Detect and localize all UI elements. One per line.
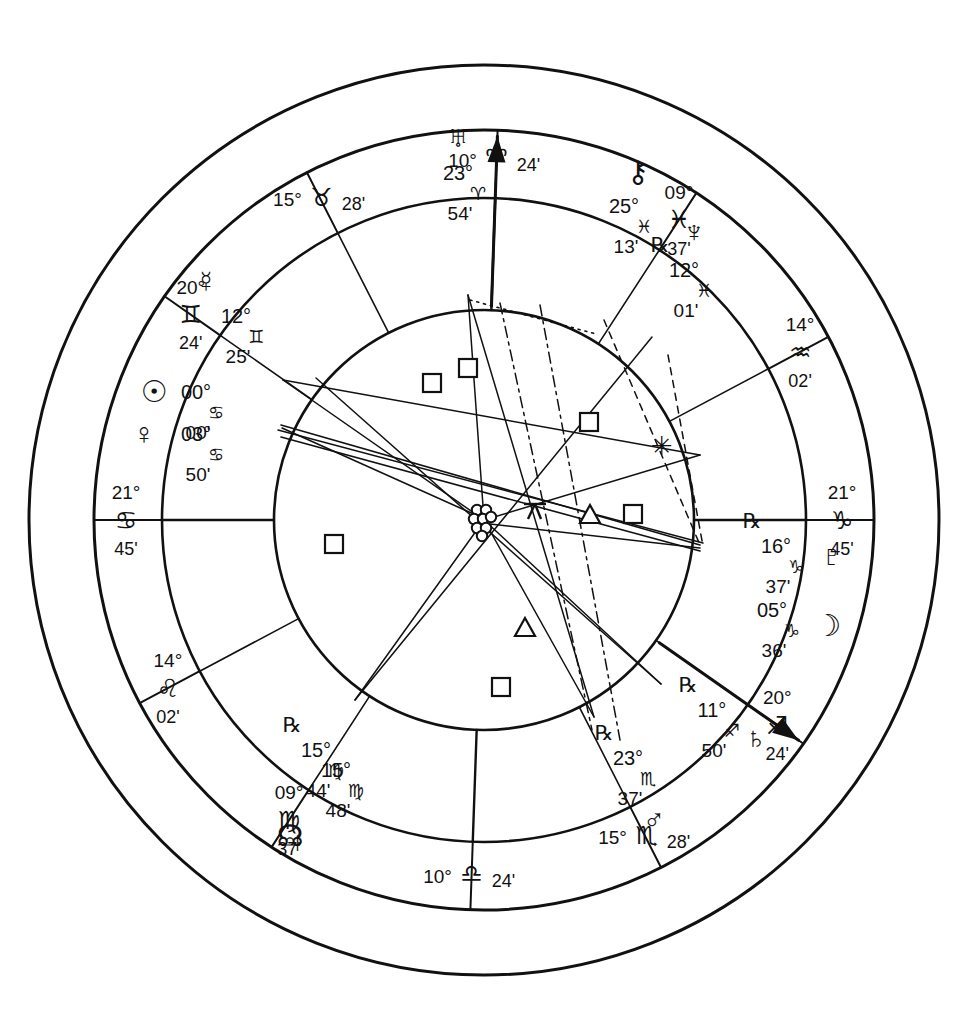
zodiac-virgo-icon: ♍	[328, 761, 344, 781]
cusp-minute-cusp-12: 24'	[179, 333, 202, 353]
cusp-minute-cusp-2: 02'	[156, 707, 179, 727]
retrograde-icon-pluto: ℞	[743, 509, 762, 532]
cusp-minute-cusp-ic: 24'	[492, 871, 515, 891]
retrograde-icon-neptune: ℞	[651, 233, 670, 256]
aspect-trine-2	[515, 618, 535, 636]
cusp-label-cusp-8: 14°♒02'	[786, 314, 815, 391]
cusp-degree-cusp-asc: 21°	[112, 482, 141, 503]
planet-minute-mars: 37'	[618, 788, 643, 809]
planet-degree-chiron: 25°	[609, 195, 639, 217]
aspect-line-dashdot-1	[500, 303, 592, 730]
zodiac-capricorn-icon: ♑	[784, 621, 800, 641]
sun-icon: ☉	[141, 375, 168, 408]
mercury-icon: ☿	[195, 265, 218, 298]
planet-mercury: ☿12°♊25'	[195, 265, 264, 367]
zodiac-cancer-icon: ♋	[208, 403, 224, 423]
planet-degree-sun: 00°	[181, 381, 211, 403]
astrology-chart-wheel: 21°♋45'14°♌02'09°♍37'10°♎24'15°♏28'20°♐2…	[0, 0, 968, 1024]
chiron-icon: ⚷	[627, 155, 649, 188]
moon-icon: ☽	[815, 609, 842, 642]
retrograde-icon-saturn: ℞	[679, 673, 698, 696]
aspect-line-pair-2a	[282, 428, 478, 516]
pluto-icon: ♇	[821, 539, 844, 572]
cusp-minute-cusp-8: 02'	[788, 371, 811, 391]
hub-aspect-line-0	[468, 295, 484, 520]
planet-uranus: ♅23°♈54'	[443, 120, 486, 224]
zodiac-cancer-icon: ♋	[115, 506, 137, 534]
cusp-degree-cusp-ic: 10°	[423, 866, 452, 887]
hub-aspect-line-3	[283, 380, 484, 520]
house-spoke-cusp-8	[669, 369, 768, 422]
zodiac-pisces-icon: ♓	[696, 281, 712, 301]
planet-minute-moon: 36'	[762, 640, 787, 661]
aspect-trine-1	[580, 505, 600, 523]
planet-degree-moon: 05°	[757, 599, 787, 621]
zodiac-leo-icon: ♌	[157, 674, 179, 702]
cusp-minute-cusp-mc: 24'	[517, 155, 540, 175]
house-spoke-cusp-11	[338, 233, 389, 333]
cusp-label-cusp-ic: 10°♎24'	[423, 859, 515, 890]
planet-degree-mars: 23°	[613, 747, 643, 769]
planet-minute-chiron: 13'	[614, 236, 639, 257]
zodiac-gemini-icon: ♊	[248, 327, 264, 347]
retrograde-icon-jupiter: ℞	[283, 713, 302, 736]
zodiac-capricorn-icon: ♑	[788, 557, 804, 577]
planet-minute-uranus: 54'	[448, 203, 473, 224]
zodiac-virgo-icon: ♍	[348, 781, 364, 801]
planet-minute-neptune: 01'	[674, 300, 699, 321]
planet-degree-venus: 03°	[181, 423, 211, 445]
aspect-square-6	[492, 678, 510, 696]
planet-minute-nnode: 48'	[326, 800, 351, 821]
cusp-degree-cusp-dsc: 21°	[828, 482, 857, 503]
planet-venus: ♀03°♋50'	[133, 417, 224, 485]
uranus-icon: ♅	[447, 120, 470, 153]
planet-minute-pluto: 37'	[766, 576, 791, 597]
aspect-square-1	[459, 359, 477, 377]
cusp-degree-cusp-8: 14°	[786, 314, 815, 335]
hub-aspect-line-1	[355, 520, 484, 700]
zodiac-sagittarius-icon: ♐	[724, 721, 740, 741]
cusp-minute-cusp-asc: 45'	[114, 539, 137, 559]
planet-degree-pluto: 16°	[761, 535, 791, 557]
hub-aspect-line-4	[484, 520, 661, 684]
neptune-icon: ♆	[683, 215, 706, 248]
jupiter-icon: ♃	[281, 825, 304, 858]
saturn-icon: ♄	[745, 721, 768, 754]
zodiac-scorpio-icon: ♏	[640, 769, 656, 789]
aspect-square-4	[624, 505, 642, 523]
cusp-label-cusp-2: 14°♌02'	[154, 650, 183, 727]
cusp-degree-cusp-6: 20°	[763, 687, 792, 708]
venus-icon: ♀	[133, 417, 156, 450]
cusp-degree-cusp-11: 15°	[273, 189, 302, 210]
planet-pluto: ♇16°♑37'℞	[743, 509, 844, 597]
aspect-square-2	[423, 374, 441, 392]
aspect-line-dotted-1	[470, 300, 596, 334]
house-spoke-cusp-ic	[473, 730, 477, 842]
conjunction-dot-7	[477, 531, 487, 541]
planet-degree-uranus: 23°	[443, 162, 473, 184]
planet-minute-venus: 50'	[186, 464, 211, 485]
aspect-sextile-1: ✳	[651, 431, 673, 461]
house-spoke-cusp-2	[200, 619, 299, 672]
zodiac-cancer-icon: ♋	[208, 445, 224, 465]
planet-minute-mercury: 25'	[226, 346, 251, 367]
cusp-minute-cusp-11: 28'	[342, 194, 365, 214]
conjunction-dot-4	[486, 512, 496, 522]
cusp-label-cusp-asc: 21°♋45'	[112, 482, 141, 559]
cusp-minute-cusp-5: 28'	[667, 832, 690, 852]
cusp-minute-cusp-6: 24'	[766, 744, 789, 764]
planet-minute-saturn: 50'	[702, 740, 727, 761]
zodiac-aries-icon: ♈	[470, 184, 486, 204]
planet-moon: ☽05°♑36'	[757, 599, 842, 661]
aspect-square-5	[325, 535, 343, 553]
retrograde-icon-mars: ℞	[595, 721, 614, 744]
zodiac-capricorn-icon: ♑	[831, 506, 853, 534]
chart-canvas: 21°♋45'14°♌02'09°♍37'10°♎24'15°♏28'20°♐2…	[0, 0, 968, 1024]
cusp-degree-cusp-9: 09°	[665, 182, 694, 203]
zodiac-libra-icon: ♎	[460, 859, 482, 887]
mars-icon: ♂	[643, 803, 666, 836]
cusp-label-cusp-11: 15°♉28'	[273, 183, 365, 214]
planet-degree-saturn: 11°	[698, 699, 727, 721]
cusp-degree-cusp-5: 15°	[598, 827, 627, 848]
planet-minute-jupiter: 44'	[306, 780, 331, 801]
